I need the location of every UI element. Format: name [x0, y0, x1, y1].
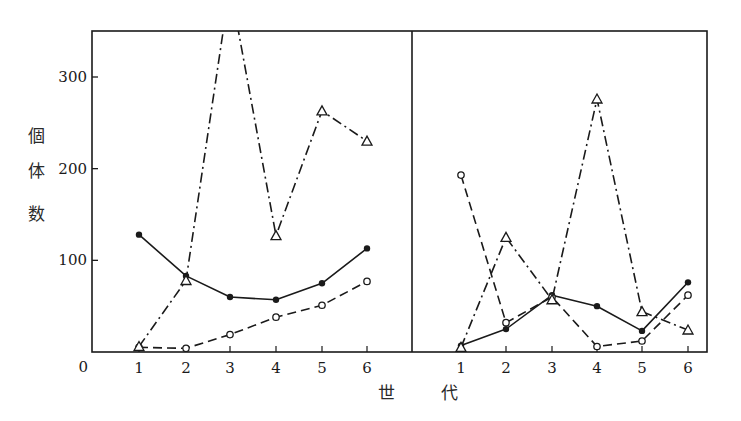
series-line — [139, 235, 367, 300]
left-panel-series — [134, 0, 372, 352]
x-axis-label-char: 代 — [441, 383, 458, 403]
series-line — [139, 0, 367, 347]
y-tick-label: 200 — [58, 160, 87, 178]
filled-circle-marker — [227, 294, 233, 300]
plot-frame — [92, 31, 707, 352]
y-axis-label-char: 体 — [28, 161, 45, 181]
open-circle-marker — [639, 338, 645, 344]
open-circle-marker — [319, 302, 325, 308]
x-tick-label: 5 — [317, 359, 327, 377]
open-triangle-marker — [317, 106, 327, 115]
open-triangle-marker — [637, 307, 647, 316]
filled-circle-marker — [503, 326, 509, 332]
x-tick-label: 3 — [225, 359, 235, 377]
open-triangle-marker — [592, 94, 602, 103]
plot-border — [92, 31, 707, 352]
series-line — [139, 281, 367, 348]
open-circle-marker — [227, 331, 233, 337]
open-triangle-marker — [271, 231, 281, 240]
x-tick-label: 6 — [683, 359, 693, 377]
right-panel-series — [456, 94, 693, 351]
x-tick-label: 1 — [456, 359, 466, 377]
y-tick-label: 100 — [58, 251, 87, 269]
x-tick-label: 6 — [362, 359, 372, 377]
y-tick-label: 300 — [58, 68, 87, 86]
y-tick-label: 0 — [78, 358, 88, 376]
open-circle-marker — [273, 314, 279, 320]
filled-circle-marker — [594, 303, 600, 309]
y-axis-label-char: 数 — [28, 204, 45, 224]
x-tick-label: 5 — [637, 359, 647, 377]
open-circle-marker — [594, 343, 600, 349]
x-tick-label: 4 — [271, 359, 281, 377]
filled-circle-marker — [364, 245, 370, 251]
x-axis-label-char: 世 — [378, 383, 395, 403]
series-line — [461, 282, 688, 345]
x-tick-label: 2 — [501, 359, 511, 377]
x-tick-label: 1 — [134, 359, 144, 377]
x-tick-label: 2 — [181, 359, 191, 377]
population-chart: 0100200300123456123456 個体数世代 — [0, 0, 741, 421]
open-circle-marker — [183, 345, 189, 351]
series-open-triangle — [456, 94, 693, 351]
filled-circle-marker — [319, 280, 325, 286]
series-line — [461, 99, 688, 347]
open-circle-marker — [364, 278, 370, 284]
filled-circle-marker — [273, 297, 279, 303]
open-triangle-marker — [362, 136, 372, 145]
open-triangle-marker — [501, 232, 511, 241]
x-tick-label: 3 — [547, 359, 557, 377]
series-filled-circle — [136, 231, 370, 302]
open-triangle-marker — [683, 325, 693, 334]
open-circle-marker — [503, 319, 509, 325]
filled-circle-marker — [685, 279, 691, 285]
open-circle-marker — [458, 172, 464, 178]
x-tick-label: 4 — [592, 359, 602, 377]
filled-circle-marker — [639, 328, 645, 334]
filled-circle-marker — [136, 231, 142, 237]
y-axis-label-char: 個 — [28, 126, 45, 146]
series-open-circle — [136, 278, 370, 351]
open-circle-marker — [685, 292, 691, 298]
axes: 0100200300123456123456 — [58, 68, 692, 377]
series-filled-circle — [458, 279, 691, 349]
series-line — [461, 175, 688, 346]
